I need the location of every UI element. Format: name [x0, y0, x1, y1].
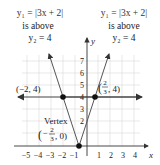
svg-text:−: − [43, 129, 48, 138]
label-vertex-coords: ( − 2 3 , 0) [38, 126, 67, 143]
svg-text:y₁ = |3x + 2|: y₁ = |3x + 2| [101, 8, 147, 18]
svg-text:−1: −1 [70, 151, 79, 160]
svg-text:3: 3 [103, 88, 107, 96]
svg-text:1: 1 [97, 151, 101, 160]
svg-text:4: 4 [133, 151, 137, 160]
y-axis-label: y [90, 36, 95, 46]
svg-text:7: 7 [80, 57, 84, 66]
svg-text:, 0): , 0) [55, 131, 67, 141]
y-tick-labels: 2 3 4 5 6 7 [80, 57, 84, 126]
svg-text:−3: −3 [46, 151, 55, 160]
x-axis-label: x [148, 150, 153, 160]
svg-text:6: 6 [80, 69, 84, 78]
svg-text:−2: −2 [58, 151, 67, 160]
svg-text:3: 3 [80, 105, 84, 114]
svg-text:3: 3 [50, 135, 54, 143]
svg-text:is above: is above [108, 21, 139, 31]
point-vertex [76, 143, 82, 149]
left-annotation: y₁ = |3x + 2| is above y₂ = 4 [17, 8, 63, 43]
svg-text:4: 4 [80, 93, 84, 102]
svg-text:−5: −5 [22, 151, 31, 160]
absolute-value-graph: −5 −4 −3 −2 −1 1 2 3 4 x 2 3 4 5 6 7 y y… [0, 0, 160, 165]
x-tick-labels: −5 −4 −3 −2 −1 1 2 3 4 [22, 151, 137, 160]
right-annotation: y₁ = |3x + 2| is above y₂ = 4 [101, 8, 147, 43]
svg-text:y₂ = 4: y₂ = 4 [113, 33, 136, 43]
svg-text:3: 3 [121, 151, 125, 160]
point-left-intersection [60, 94, 66, 100]
svg-text:(: ( [38, 128, 42, 142]
svg-text:(: ( [98, 81, 102, 95]
svg-text:−4: −4 [34, 151, 43, 160]
svg-text:y₁ = |3x + 2|: y₁ = |3x + 2| [17, 8, 63, 18]
label-right-point: ( 2 3 , 4) [98, 79, 120, 96]
svg-text:is above: is above [22, 21, 53, 31]
svg-text:2: 2 [103, 79, 107, 87]
svg-text:5: 5 [80, 81, 84, 90]
svg-text:2: 2 [80, 117, 84, 126]
svg-text:2: 2 [50, 126, 54, 134]
svg-text:y₂ = 4: y₂ = 4 [29, 33, 52, 43]
label-left-point: (−2, 4) [16, 84, 41, 94]
svg-text:, 4): , 4) [108, 84, 120, 94]
label-vertex: Vertex [44, 116, 68, 126]
point-right-intersection [92, 94, 98, 100]
svg-text:2: 2 [109, 151, 113, 160]
